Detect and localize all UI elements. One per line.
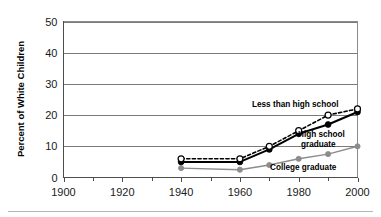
annotation-college-graduate: College graduate xyxy=(270,163,337,172)
x-axis-tick-labels: 190019201940196019802000 xyxy=(51,186,369,198)
annotation-high-school-line2: graduate xyxy=(301,140,336,149)
data-point-high-school-graduate-1990 xyxy=(325,122,331,128)
y-axis-tick-labels: 01020304050 xyxy=(45,16,57,184)
x-tick-label-1900: 1900 xyxy=(51,186,75,198)
annotation-less-than-high-school: Less than high school xyxy=(252,100,338,109)
data-point-college-graduate-2000 xyxy=(355,144,360,149)
data-point-less-than-high-school-2000 xyxy=(355,106,361,112)
data-point-college-graduate-1960 xyxy=(237,167,242,172)
data-point-less-than-high-school-1960 xyxy=(237,156,243,162)
y-axis-title: Percent of White Children xyxy=(15,41,26,157)
data-point-college-graduate-1980 xyxy=(296,156,301,161)
x-tick-label-2000: 2000 xyxy=(345,186,369,198)
y-tick-label-0: 0 xyxy=(51,172,57,184)
plot-area-background xyxy=(63,21,358,177)
chart-figure: 01020304050 190019201940196019802000 Per… xyxy=(0,0,381,217)
y-tick-label-40: 40 xyxy=(45,47,57,59)
annotation-high-school-line1: High school xyxy=(298,130,345,139)
y-tick-label-20: 20 xyxy=(45,109,57,121)
data-point-less-than-high-school-1970 xyxy=(266,143,272,149)
data-point-less-than-high-school-1990 xyxy=(325,112,331,118)
x-tick-label-1940: 1940 xyxy=(169,186,193,198)
y-tick-label-30: 30 xyxy=(45,78,57,90)
data-point-college-graduate-1990 xyxy=(326,152,331,157)
x-tick-label-1920: 1920 xyxy=(110,186,134,198)
y-tick-label-50: 50 xyxy=(45,16,57,28)
line-chart: 01020304050 190019201940196019802000 Per… xyxy=(0,0,381,217)
x-tick-label-1960: 1960 xyxy=(228,186,252,198)
data-point-college-graduate-1940 xyxy=(179,166,184,171)
y-tick-label-10: 10 xyxy=(45,140,57,152)
x-tick-label-1980: 1980 xyxy=(286,186,310,198)
x-axis-tickmarks xyxy=(65,178,359,182)
data-point-less-than-high-school-1940 xyxy=(178,156,184,162)
